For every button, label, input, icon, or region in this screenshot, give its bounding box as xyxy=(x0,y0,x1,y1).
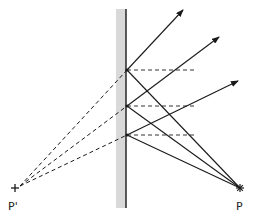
virtual-ray xyxy=(20,70,127,186)
mirror-glass xyxy=(116,9,126,208)
mirror-reflection-diagram: P P' xyxy=(0,0,259,218)
virtual-ray xyxy=(20,106,127,186)
source-point-asterisk-icon xyxy=(236,184,244,192)
virtual-rays xyxy=(20,70,127,186)
reflected-ray-arrow xyxy=(127,81,238,135)
reflection-point xyxy=(125,133,128,136)
virtual-ray xyxy=(20,135,127,186)
image-label: P' xyxy=(8,200,18,213)
reflection-point xyxy=(125,68,128,71)
reflected-ray-arrow xyxy=(127,10,183,70)
incident-ray xyxy=(127,106,240,188)
reflected-ray-arrow xyxy=(127,37,219,106)
incident-ray xyxy=(127,135,240,188)
image-point-cross-icon xyxy=(11,184,19,192)
source-label: P xyxy=(236,200,243,213)
reflection-point xyxy=(125,104,128,107)
